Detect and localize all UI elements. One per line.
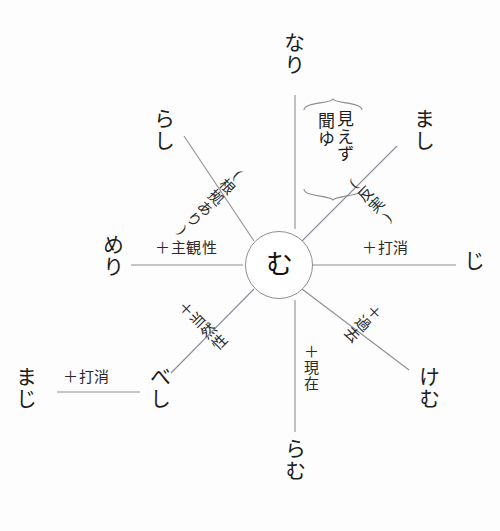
edge-label-right: ＋打消 [362,236,409,257]
center-node-label: む [266,252,293,279]
brace-word-miezu: 見えず [335,110,353,163]
center-node-circle[interactable]: む [245,231,313,299]
node-nari[interactable]: なり [282,32,304,76]
node-meri[interactable]: めり [101,234,123,278]
node-maji[interactable]: まじ [14,366,36,410]
node-rashi[interactable]: らし [152,108,174,152]
node-ramu[interactable]: らむ [283,438,305,482]
nari-sense-brace-group: 聞ゆ 見えず [303,98,365,202]
diagram-canvas: む なり まし じ けむ らむ べし めり らし まじ (反実) ＋打消 ＋過去… [0,0,500,531]
edge-label-bottom: ＋現在 [300,344,321,392]
brace-word-kikoyu: 聞ゆ [315,110,333,147]
node-beshi[interactable]: べし [148,366,170,410]
node-ji[interactable]: じ [462,250,484,272]
node-kemu[interactable]: けむ [417,366,439,410]
node-mashi[interactable]: まし [412,108,434,152]
edge-label-maji: ＋打消 [63,365,110,386]
